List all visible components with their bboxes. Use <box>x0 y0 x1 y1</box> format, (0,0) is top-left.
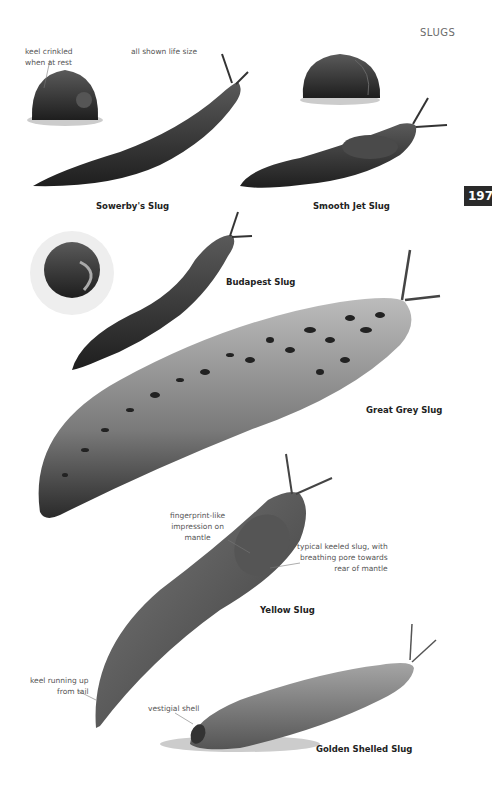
species-label-great-grey-slug: Great Grey Slug <box>366 405 442 415</box>
golden-shelled-slug-illustration <box>160 624 436 752</box>
species-label-sowerbys-slug: Sowerby's Slug <box>96 201 169 211</box>
note-keel-running-up: keel running up from tail <box>30 675 89 697</box>
smooth-jet-slug-illustration <box>240 98 447 188</box>
note-life-size: all shown life size <box>131 46 197 57</box>
species-label-yellow-slug: Yellow Slug <box>260 605 315 615</box>
note-typical-keeled-slug: typical keeled slug, with breathing pore… <box>297 541 388 574</box>
species-label-smooth-jet-slug: Smooth Jet Slug <box>313 201 390 211</box>
sowerbys-slug-contracted-illustration <box>27 60 103 126</box>
note-vestigial-shell: vestigial shell <box>148 703 199 714</box>
budapest-slug-coiled-illustration <box>30 231 114 315</box>
note-fingerprint-mantle: fingerprint-like impression on mantle <box>170 510 225 543</box>
page-number-tab: 197 <box>464 186 492 206</box>
note-keel-crinkled: keel crinkled when at rest <box>25 46 73 68</box>
species-label-golden-shelled-slug: Golden Shelled Slug <box>316 744 412 754</box>
species-label-budapest-slug: Budapest Slug <box>226 277 295 287</box>
smooth-jet-slug-contracted-illustration <box>300 54 380 105</box>
section-title: SLUGS <box>420 27 455 38</box>
